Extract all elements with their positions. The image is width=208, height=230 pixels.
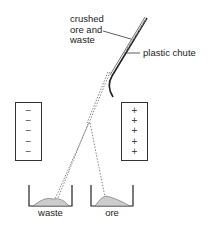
ore-bin-label: ore	[91, 207, 133, 218]
plastic-chute	[109, 17, 147, 97]
positive-sign: +	[132, 147, 138, 157]
positive-plate: + + + + +	[121, 102, 148, 161]
feed-leader-line	[103, 31, 131, 39]
positive-sign: +	[132, 126, 138, 136]
negative-plate: − − − − −	[15, 102, 42, 161]
ore-bin	[91, 185, 133, 206]
waste-bin-label: waste	[29, 207, 72, 218]
negative-sign: −	[26, 126, 32, 136]
waste-bin	[29, 185, 72, 206]
feed-label: crushed ore and waste	[70, 14, 104, 46]
chute-label: plastic chute	[143, 48, 196, 59]
feed-label-line-3: waste	[70, 35, 104, 46]
negative-sign: −	[26, 147, 32, 157]
particle-stream	[55, 72, 110, 199]
feed-label-line-1: crushed	[70, 14, 104, 25]
